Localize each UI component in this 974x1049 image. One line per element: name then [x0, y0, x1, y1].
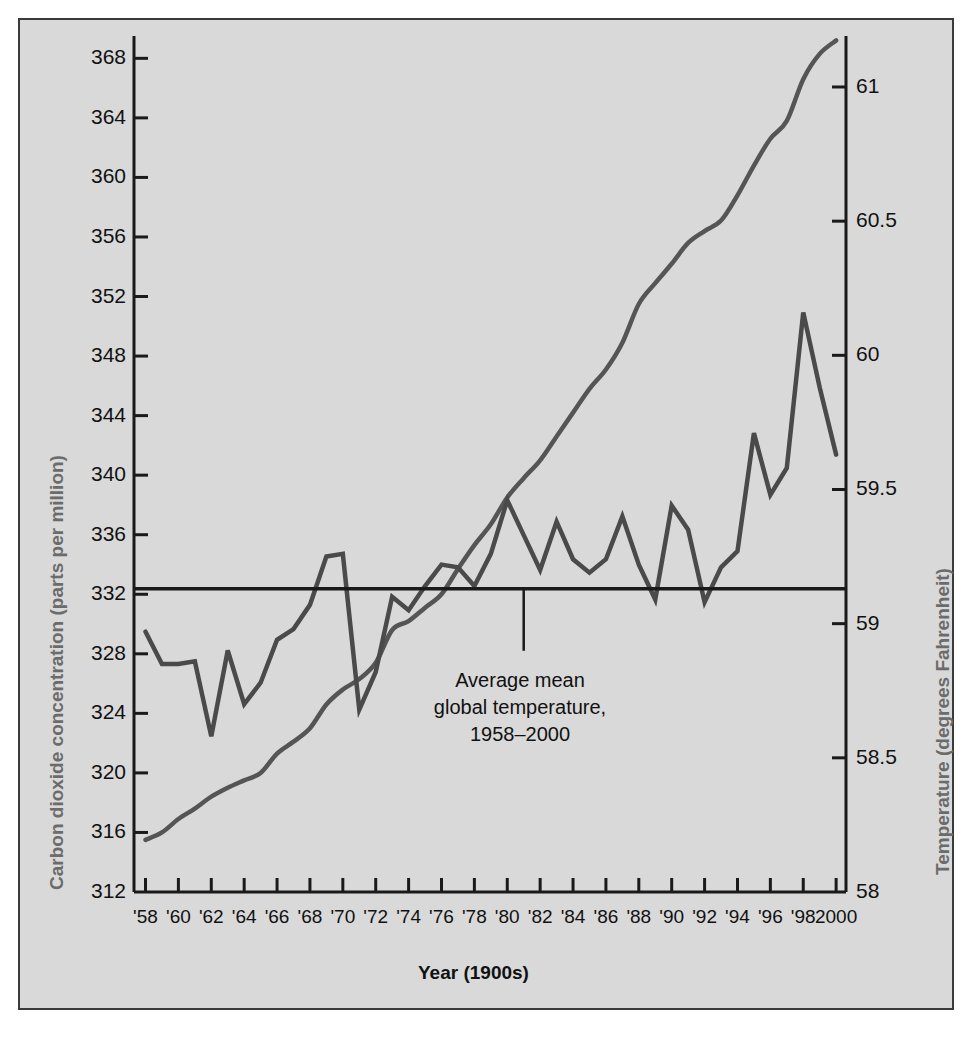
left-tick-label: 324 [78, 700, 126, 724]
left-tick-label: 356 [78, 224, 126, 248]
left-tick-label: 344 [78, 403, 126, 427]
left-tick-label: 340 [78, 462, 126, 486]
right-tick-label: 58 [856, 879, 879, 903]
left-tick-label: 364 [78, 105, 126, 129]
left-tick-label: 348 [78, 343, 126, 367]
co2-series-line [146, 40, 837, 839]
right-tick-label: 58.5 [856, 745, 897, 769]
left-tick-label: 332 [78, 581, 126, 605]
left-tick-label: 352 [78, 284, 126, 308]
plot-area [20, 20, 956, 1012]
right-tick-label: 61 [856, 74, 879, 98]
right-tick-label: 60 [856, 342, 879, 366]
left-tick-label: 368 [78, 45, 126, 69]
x-tick-label: 2000 [810, 906, 862, 928]
left-tick-label: 328 [78, 641, 126, 665]
right-tick-label: 59.5 [856, 476, 897, 500]
chart-figure: Carbon dioxide concentration (parts per … [18, 18, 954, 1010]
left-tick-label: 360 [78, 164, 126, 188]
left-tick-label: 312 [78, 879, 126, 903]
left-tick-label: 336 [78, 522, 126, 546]
left-tick-label: 316 [78, 819, 126, 843]
tick-marks [134, 58, 846, 892]
right-tick-label: 59 [856, 611, 879, 635]
left-tick-label: 320 [78, 760, 126, 784]
right-tick-label: 60.5 [856, 208, 897, 232]
